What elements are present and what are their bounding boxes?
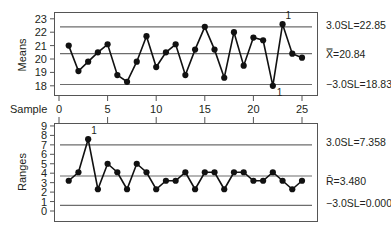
- out-of-control-flag: 1: [277, 87, 283, 98]
- control-chart: 181920212223 11 Means 3.0SL=22.85 X̿=20.…: [0, 0, 391, 230]
- data-point: [192, 47, 198, 53]
- data-point: [153, 186, 159, 192]
- data-point: [289, 51, 295, 57]
- means-chart-panel: 181920212223 11 Means 3.0SL=22.85 X̿=20.…: [16, 10, 391, 98]
- data-point: [241, 63, 247, 69]
- ranges-ucl-label: 3.0SL=7.358: [326, 136, 386, 148]
- data-point: [192, 186, 198, 192]
- data-point: [279, 21, 285, 27]
- x-tick-label: 5: [105, 103, 111, 115]
- data-point: [173, 178, 179, 184]
- sample-x-axis: Sample 0510152025: [10, 96, 308, 123]
- data-point: [260, 37, 266, 43]
- means-y-axis: 181920212223: [35, 13, 55, 92]
- means-ucl-label: 3.0SL=22.85: [326, 19, 386, 31]
- x-tick-label: 25: [296, 103, 308, 115]
- data-point: [114, 169, 120, 175]
- data-point: [289, 186, 295, 192]
- data-point: [163, 178, 169, 184]
- data-point: [75, 68, 81, 74]
- data-point: [163, 49, 169, 55]
- y-tick-label: 21: [35, 40, 47, 52]
- y-tick-label: 18: [35, 80, 47, 92]
- data-point: [299, 55, 305, 61]
- data-point: [250, 178, 256, 184]
- data-point: [134, 161, 140, 167]
- data-point: [260, 178, 266, 184]
- data-point: [182, 72, 188, 78]
- out-of-control-flag: 1: [91, 125, 97, 136]
- data-point: [202, 24, 208, 30]
- data-point: [124, 186, 130, 192]
- data-point: [250, 34, 256, 40]
- data-point: [95, 49, 101, 55]
- ranges-annotations: 1: [91, 125, 97, 136]
- data-point: [95, 186, 101, 192]
- x-ticks: 0510152025: [56, 96, 308, 123]
- data-point: [270, 169, 276, 175]
- data-point: [105, 161, 111, 167]
- y-tick-label: 22: [35, 26, 47, 38]
- x-tick-label: 10: [150, 103, 162, 115]
- data-point: [143, 169, 149, 175]
- data-point: [231, 29, 237, 35]
- data-point: [221, 186, 227, 192]
- y-tick-label: 9: [41, 120, 47, 132]
- data-point: [299, 178, 305, 184]
- sample-axis-title: Sample: [10, 103, 47, 115]
- ranges-chart-panel: 0123456789 1 Ranges 3.0SL=7.358 R̄=3.480…: [16, 120, 391, 222]
- out-of-control-flag: 1: [286, 10, 292, 21]
- data-point: [241, 169, 247, 175]
- data-point: [279, 178, 285, 184]
- data-point: [202, 169, 208, 175]
- x-tick-label: 15: [199, 103, 211, 115]
- data-point: [85, 59, 91, 65]
- means-series: [66, 21, 305, 89]
- data-point: [134, 59, 140, 65]
- x-tick-label: 0: [56, 103, 62, 115]
- ranges-center-label: R̄=3.480: [326, 175, 366, 187]
- data-point: [143, 33, 149, 39]
- y-tick-label: 19: [35, 66, 47, 78]
- data-line: [69, 139, 302, 189]
- y-tick-label: 23: [35, 13, 47, 25]
- data-point: [211, 47, 217, 53]
- y-tick-label: 20: [35, 53, 47, 65]
- ranges-lcl-label: −3.0SL=0.000: [326, 197, 391, 209]
- data-point: [75, 169, 81, 175]
- data-point: [153, 64, 159, 70]
- data-point: [105, 41, 111, 47]
- ranges-y-axis: 0123456789: [41, 120, 55, 217]
- data-point: [211, 169, 217, 175]
- means-axis-title: Means: [16, 38, 28, 72]
- data-point: [173, 41, 179, 47]
- means-center-label: X̿=20.84: [325, 48, 365, 60]
- x-tick-label: 20: [247, 103, 259, 115]
- data-point: [270, 83, 276, 89]
- ranges-axis-title: Ranges: [16, 153, 28, 191]
- data-point: [66, 43, 72, 49]
- data-point: [114, 72, 120, 78]
- data-point: [182, 169, 188, 175]
- data-point: [66, 178, 72, 184]
- means-lcl-label: −3.0SL=18.83: [326, 78, 391, 90]
- data-point: [221, 75, 227, 81]
- data-point: [231, 169, 237, 175]
- data-point: [85, 136, 91, 142]
- data-point: [124, 79, 130, 85]
